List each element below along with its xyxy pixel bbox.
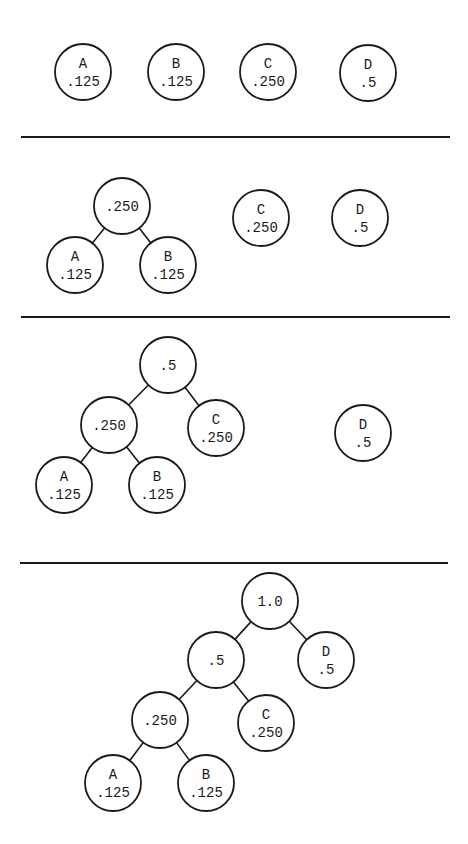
node-circle (148, 44, 204, 100)
node-ab: .250 (81, 397, 137, 453)
huffman-diagram: A.125B.125C.250D.5.250A.125B.125C.250D.5… (0, 0, 468, 844)
node-a: A.125 (85, 755, 141, 811)
node-abc: .5 (140, 337, 196, 393)
edge-abc-c (233, 682, 248, 701)
node-value: .5 (318, 662, 335, 678)
edge-root-d (289, 621, 306, 639)
node-value: .250 (105, 199, 139, 215)
node-c: C.250 (188, 400, 244, 456)
node-value: .125 (189, 785, 223, 801)
node-b: B.125 (178, 755, 234, 811)
node-circle (55, 44, 111, 100)
panel-step-4: 1.0.5D.5.250C.250A.125B.125 (85, 573, 354, 811)
node-label: A (71, 249, 80, 265)
node-label: C (212, 412, 220, 428)
node-circle (178, 755, 234, 811)
node-a: A.125 (36, 457, 92, 513)
node-b: B.125 (129, 457, 185, 513)
node-b: B.125 (148, 44, 204, 100)
node-value: .250 (143, 713, 177, 729)
node-label: A (109, 767, 118, 783)
node-circle (188, 400, 244, 456)
node-label: D (364, 57, 372, 73)
edge-abc-ab (179, 680, 197, 699)
node-circle (340, 45, 396, 101)
edge-ab-a (81, 447, 92, 462)
node-value: .5 (160, 358, 177, 374)
node-circle (298, 632, 354, 688)
node-circle (47, 237, 103, 293)
node-value: .250 (251, 74, 285, 90)
edge-ab-a (130, 742, 144, 760)
node-value: .250 (199, 430, 233, 446)
node-value: .125 (58, 267, 92, 283)
node-label: A (60, 469, 69, 485)
node-d: D.5 (340, 45, 396, 101)
node-value: .250 (244, 220, 278, 236)
node-root: 1.0 (242, 573, 298, 629)
node-circle (140, 237, 196, 293)
edge-ab-a (92, 228, 104, 243)
node-value: .125 (96, 785, 130, 801)
node-d: D.5 (298, 632, 354, 688)
node-c: C.250 (240, 44, 296, 100)
node-label: B (153, 469, 161, 485)
edge-abc-c (185, 387, 199, 405)
node-label: B (202, 767, 210, 783)
node-value: .125 (66, 74, 100, 90)
node-b: B.125 (140, 237, 196, 293)
node-value: .5 (208, 653, 225, 669)
node-ab: .250 (94, 178, 150, 234)
node-c: C.250 (238, 695, 294, 751)
edge-ab-b (177, 743, 190, 761)
node-circle (335, 405, 391, 461)
node-circle (233, 190, 289, 246)
edge-abc-ab (129, 385, 149, 405)
node-c: C.250 (233, 190, 289, 246)
node-value: .125 (159, 74, 193, 90)
edge-ab-b (139, 228, 151, 243)
edge-root-abc (235, 622, 251, 640)
node-circle (36, 457, 92, 513)
node-label: B (172, 56, 180, 72)
node-a: A.125 (55, 44, 111, 100)
node-value: .250 (249, 725, 283, 741)
node-label: D (322, 644, 330, 660)
edge-ab-b (126, 447, 139, 463)
node-circle (238, 695, 294, 751)
node-label: A (79, 56, 88, 72)
node-value: .250 (92, 418, 126, 434)
node-abc: .5 (188, 632, 244, 688)
node-a: A.125 (47, 237, 103, 293)
node-label: D (356, 202, 364, 218)
node-label: B (164, 249, 172, 265)
node-value: .5 (352, 220, 369, 236)
node-label: C (262, 707, 270, 723)
node-label: C (264, 56, 272, 72)
node-value: .5 (360, 75, 377, 91)
node-d: D.5 (332, 190, 388, 246)
panel-step-3: .5.250C.250A.125B.125D.5 (36, 337, 391, 513)
panel-step-1: A.125B.125C.250D.5 (55, 44, 396, 101)
node-circle (85, 755, 141, 811)
node-value: .125 (140, 487, 174, 503)
node-ab: .250 (132, 692, 188, 748)
node-circle (240, 44, 296, 100)
node-value: 1.0 (257, 594, 282, 610)
node-circle (332, 190, 388, 246)
node-label: D (359, 417, 367, 433)
node-label: C (257, 202, 265, 218)
node-value: .125 (151, 267, 185, 283)
node-value: .5 (355, 435, 372, 451)
node-value: .125 (47, 487, 81, 503)
panel-step-2: .250A.125B.125C.250D.5 (47, 178, 388, 293)
node-d: D.5 (335, 405, 391, 461)
node-circle (129, 457, 185, 513)
